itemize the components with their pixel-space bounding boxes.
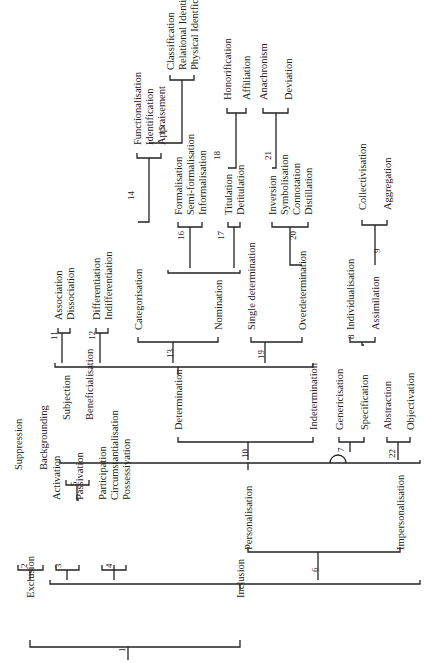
label-dissociation: Dissociation bbox=[65, 267, 76, 320]
system-number: 14 bbox=[126, 191, 136, 201]
label-overdetermination: Overdetermination bbox=[297, 250, 308, 330]
label-participation: Participation bbox=[97, 446, 108, 500]
label-inversion: Inversion bbox=[267, 175, 278, 215]
label-titulation: Titulation bbox=[223, 173, 234, 215]
label-impersonalisation: Impersonalisation bbox=[395, 474, 406, 550]
system-number: 2 bbox=[19, 564, 29, 569]
label-symbolisation: Symbolisation bbox=[279, 154, 290, 215]
label-connotation: Connotation bbox=[291, 162, 302, 215]
label-individualisation: Individualisation bbox=[345, 258, 356, 330]
label-determination: Determination bbox=[173, 369, 184, 430]
system-network-diagram: ExclusionInclusionSuppressionBackgroundi… bbox=[0, 0, 427, 663]
label-indifferentiation: Indifferentiation bbox=[103, 251, 114, 320]
label-affiliation: Affiliation bbox=[241, 55, 252, 100]
label-honorification: Honorification bbox=[222, 37, 233, 100]
system-number: 9 bbox=[372, 248, 382, 253]
label-subjection: Subjection bbox=[61, 374, 72, 420]
system-number: 1 bbox=[117, 648, 127, 653]
system-number: 21 bbox=[263, 151, 273, 160]
label-beneficialisation: Beneficialisation bbox=[84, 348, 95, 420]
system-number: 11 bbox=[49, 331, 59, 340]
label-appraisement: Appraisement bbox=[156, 86, 167, 145]
system-number: 10 bbox=[240, 449, 250, 459]
label-single-determination: Single determination bbox=[246, 241, 257, 330]
label-exclusion: Exclusion bbox=[25, 555, 36, 598]
system-number: 7 bbox=[336, 447, 346, 452]
label-passivation: Passivation bbox=[74, 451, 85, 500]
label-relational-identification: Relational Identification bbox=[177, 0, 188, 70]
system-number: 13 bbox=[165, 349, 175, 359]
label-objectivation: Objectivation bbox=[405, 372, 416, 430]
label-semi-formalisation: Semi-formalisation bbox=[185, 133, 196, 215]
system-number: 17 bbox=[216, 231, 226, 241]
system-number: 20 bbox=[288, 231, 298, 241]
label-indetermination: Indetermination bbox=[308, 362, 319, 430]
label-assimilation: Assimilation bbox=[370, 276, 381, 330]
label-physical-identification: Physical Identfication bbox=[189, 0, 200, 70]
label-aggregation: Aggregation bbox=[382, 157, 393, 210]
label-detitulation: Detitulation bbox=[235, 164, 246, 215]
system-number: 12 bbox=[87, 331, 97, 340]
system-number: 18 bbox=[212, 151, 222, 161]
system-number: 8 bbox=[346, 334, 356, 339]
label-specification: Specification bbox=[359, 374, 370, 430]
label-possessivation: Possessivation bbox=[121, 438, 132, 500]
system-number: 22 bbox=[387, 449, 397, 458]
label-abstraction: Abstraction bbox=[382, 380, 393, 430]
label-backgrounding: Backgrounding bbox=[38, 405, 49, 470]
label-categorisation: Categorisation bbox=[133, 268, 144, 330]
label-informalisation: Informalisation bbox=[197, 150, 208, 215]
system-number: 5 bbox=[69, 481, 79, 486]
label-personalisation: Personalisation bbox=[243, 485, 254, 550]
label-identification: Identification bbox=[144, 88, 155, 145]
system-number: 6 bbox=[310, 567, 320, 572]
label-activation: Activation bbox=[51, 455, 62, 500]
label-collectivisation: Collectivisation bbox=[357, 143, 368, 210]
system-number: 4 bbox=[104, 563, 114, 568]
label-formalisation: Formalisation bbox=[173, 156, 184, 215]
system-number: 16 bbox=[176, 231, 186, 241]
label-genericisation: Genericisation bbox=[334, 368, 345, 430]
system-number: 15 bbox=[157, 126, 167, 136]
label-inclusion: Inclusion bbox=[235, 558, 246, 598]
label-anachronism: Anachronism bbox=[258, 43, 269, 100]
label-functionalisation: Functionalisation bbox=[132, 71, 143, 145]
label-circumstantialisation: Circumstantialisation bbox=[109, 409, 120, 500]
label-nomination: Nomination bbox=[213, 279, 224, 330]
label-association: Association bbox=[53, 270, 64, 320]
label-distillation: Distillation bbox=[303, 167, 314, 215]
label-differentiation: Differentiation bbox=[91, 257, 102, 320]
system-number: 19 bbox=[256, 350, 266, 360]
diagram-labels: ExclusionInclusionSuppressionBackgroundi… bbox=[13, 0, 416, 598]
system-number: 3 bbox=[53, 563, 63, 568]
label-deviation: Deviation bbox=[283, 58, 294, 100]
label-suppression: Suppression bbox=[13, 418, 24, 470]
label-classification: Classification bbox=[165, 12, 176, 70]
